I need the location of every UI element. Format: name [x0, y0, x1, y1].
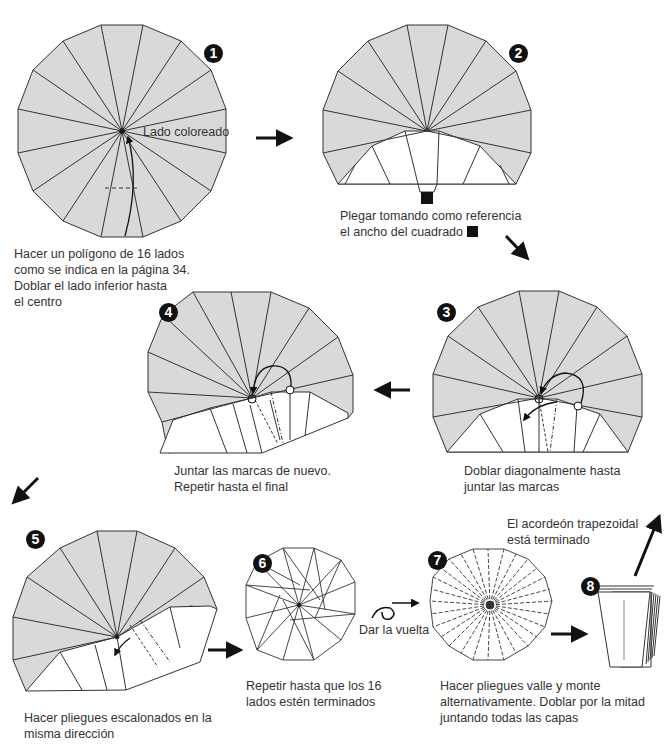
turn-over-icon — [372, 603, 418, 619]
step1-caption: Hacer un polígono de 16 lados como se in… — [14, 246, 190, 310]
origami-diagram — [0, 0, 667, 744]
step-badge-2: 2 — [509, 44, 528, 63]
step-badge-7: 7 — [428, 551, 447, 570]
step2-caption-text: Plegar tomando como referencia el ancho … — [340, 209, 521, 239]
step6-caption: Repetir hasta que los 16 lados estén ter… — [246, 678, 382, 710]
step8-accordion — [598, 586, 660, 667]
step3-polygon — [433, 291, 642, 452]
step5-caption: Hacer pliegues escalonados en la misma d… — [24, 710, 212, 742]
step-badge-3: 3 — [437, 303, 456, 322]
step2-caption: Plegar tomando como referencia el ancho … — [340, 208, 521, 240]
step4-polygon — [148, 292, 353, 453]
step7-polygon — [430, 549, 552, 660]
arrow-icon — [14, 478, 38, 502]
turn-over-label: Dar la vuelta — [359, 622, 429, 638]
square-marker-icon — [467, 226, 478, 237]
step-badge-6: 6 — [253, 554, 272, 573]
arrow-icon — [635, 517, 659, 576]
step3-caption: Doblar diagonalmente hasta juntar las ma… — [464, 463, 620, 495]
step8-caption: El acordeón trapezoidal está terminado — [507, 516, 638, 548]
step4-caption: Juntar las marcas de nuevo. Repetir hast… — [174, 463, 331, 495]
square-marker-icon — [421, 192, 433, 204]
colored-side-label: Lado coloreado — [143, 124, 229, 140]
step-badge-1: 1 — [204, 44, 223, 63]
step7-caption: Hacer pliegues valle y monte alternativa… — [440, 678, 645, 726]
step5-polygon — [13, 531, 217, 691]
step2-polygon — [323, 25, 531, 192]
step-badge-8: 8 — [581, 577, 600, 596]
step-badge-5: 5 — [26, 530, 45, 549]
